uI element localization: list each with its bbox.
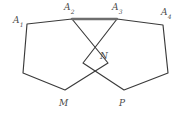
- vertex-label-a1: A1: [13, 16, 23, 27]
- vertex-label-a3-subscript: 3: [119, 8, 123, 15]
- vertex-label-m: M: [59, 99, 68, 108]
- vertex-label-a3: A3: [112, 3, 122, 14]
- vertex-label-a2-base: A: [64, 2, 71, 12]
- vertex-label-p: P: [119, 99, 125, 108]
- geometry-figure: A1 A2 A3 A4 M N P: [0, 0, 187, 116]
- vertex-label-a3-base: A: [112, 2, 119, 12]
- vertex-label-a2: A2: [64, 3, 74, 14]
- right-pentagon-outline: [83, 19, 168, 90]
- vertex-label-p-base: P: [119, 98, 125, 108]
- vertex-label-n-base: N: [100, 51, 108, 61]
- vertex-label-a4: A4: [161, 8, 171, 19]
- left-pentagon-outline: [23, 19, 108, 90]
- vertex-label-a4-subscript: 4: [168, 13, 172, 20]
- vertex-label-a2-subscript: 2: [71, 8, 75, 15]
- vertex-label-a1-base: A: [13, 15, 20, 25]
- vertex-label-a1-subscript: 1: [20, 21, 24, 28]
- figure-canvas: [0, 0, 187, 116]
- vertex-label-m-base: M: [59, 98, 68, 108]
- vertex-label-a4-base: A: [161, 7, 168, 17]
- vertex-label-n: N: [100, 52, 108, 61]
